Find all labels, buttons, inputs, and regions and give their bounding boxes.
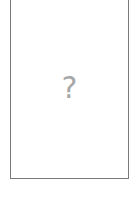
image-placeholder-frame[interactable]: ? — [10, 0, 129, 179]
image-placeholder-container: ? — [0, 0, 140, 197]
question-mark-icon: ? — [62, 73, 78, 103]
image-caption — [10, 186, 130, 196]
